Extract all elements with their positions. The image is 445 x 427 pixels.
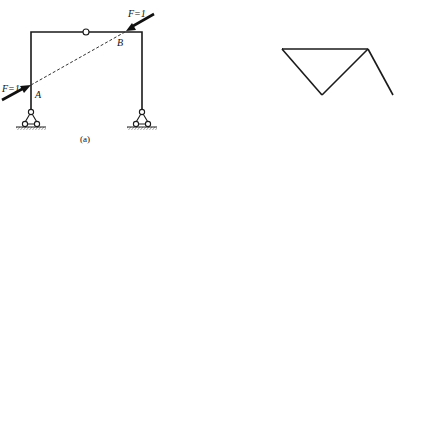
truss-b (282, 49, 393, 95)
structural-diagram-figure: F=1 F=1 A B (a) (0, 0, 445, 427)
frame-a (31, 29, 142, 112)
pin-support-icon (127, 109, 157, 130)
pin-support-icon (16, 109, 46, 130)
label-f-left: F=1 (1, 83, 20, 94)
dashed-line-ab (31, 32, 125, 85)
label-f-right: F=1 (127, 8, 146, 19)
label-point-b: B (117, 37, 123, 48)
panel-a: F=1 F=1 A B (a) (1, 8, 157, 144)
hinge-icon (83, 29, 89, 35)
caption-a: (a) (80, 134, 90, 144)
label-point-a: A (34, 89, 42, 100)
panel-b (282, 49, 393, 95)
